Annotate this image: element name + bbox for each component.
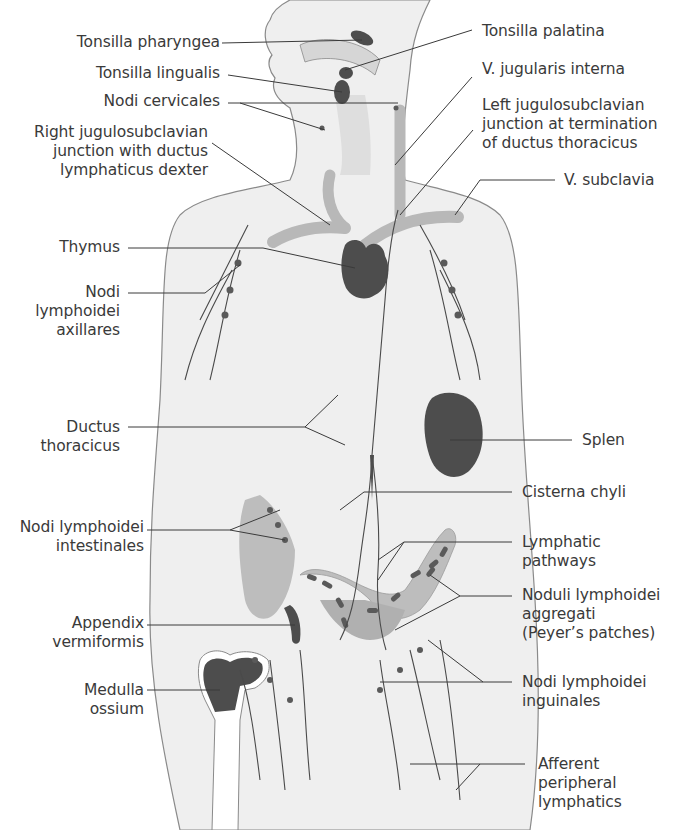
- label-line: lymphaticus dexter: [34, 161, 208, 180]
- label-line: Appendix: [52, 614, 144, 633]
- label-line: junction at termination: [482, 115, 657, 134]
- label-right-jugulosubclavian: Right jugulosubclavian junction with duc…: [34, 123, 208, 180]
- label-line: Afferent: [538, 755, 622, 774]
- label-line: junction with ductus: [34, 142, 208, 161]
- label-line: lymphoidei: [35, 302, 120, 321]
- label-line: of ductus thoracicus: [482, 134, 657, 153]
- label-line: pathways: [522, 552, 601, 571]
- label-line: Nodi lymphoidei: [522, 673, 646, 692]
- label-line: axillares: [35, 321, 120, 340]
- label-line: Right jugulosubclavian: [34, 123, 208, 142]
- label-appendix-vermiformis: Appendix vermiformis: [52, 614, 144, 652]
- label-line: thoracicus: [40, 437, 120, 456]
- label-noduli-aggregati: Noduli lymphoidei aggregati (Peyer’s pat…: [522, 586, 660, 643]
- label-line: Left jugulosubclavian: [482, 96, 657, 115]
- label-line: Lymphatic: [522, 533, 601, 552]
- label-tonsilla-palatina: Tonsilla palatina: [482, 22, 605, 41]
- tonsilla-palatina-shape: [339, 67, 353, 79]
- label-medulla-ossium: Medulla ossium: [84, 681, 144, 719]
- label-ductus-thoracicus: Ductus thoracicus: [40, 418, 120, 456]
- label-line: Thymus: [59, 238, 120, 257]
- lymphatic-system-diagram: Tonsilla pharyngea Tonsilla lingualis No…: [0, 0, 690, 830]
- label-splen: Splen: [582, 431, 625, 450]
- label-line: lymphatics: [538, 793, 622, 812]
- label-line: Tonsilla palatina: [482, 22, 605, 41]
- label-line: inguinales: [522, 692, 646, 711]
- label-line: Tonsilla pharyngea: [77, 33, 220, 52]
- label-left-jugulosubclavian: Left jugulosubclavian junction at termin…: [482, 96, 657, 153]
- label-lymphatic-pathways: Lymphatic pathways: [522, 533, 601, 571]
- label-line: Noduli lymphoidei: [522, 586, 660, 605]
- label-line: aggregati: [522, 605, 660, 624]
- label-line: Tonsilla lingualis: [96, 64, 220, 83]
- label-cisterna-chyli: Cisterna chyli: [522, 483, 626, 502]
- label-line: V. subclavia: [564, 171, 654, 190]
- label-nodi-intestinales: Nodi lymphoidei intestinales: [20, 518, 144, 556]
- thymus-shape: [341, 240, 388, 298]
- label-line: ossium: [84, 700, 144, 719]
- label-tonsilla-lingualis: Tonsilla lingualis: [96, 64, 220, 83]
- label-line: Medulla: [84, 681, 144, 700]
- label-line: peripheral: [538, 774, 622, 793]
- label-tonsilla-pharyngea: Tonsilla pharyngea: [77, 33, 220, 52]
- label-v-jugularis-interna: V. jugularis interna: [482, 60, 625, 79]
- label-line: Nodi cervicales: [104, 92, 221, 111]
- label-nodi-cervicales: Nodi cervicales: [104, 92, 221, 111]
- label-line: intestinales: [20, 537, 144, 556]
- label-nodi-inguinales: Nodi lymphoidei inguinales: [522, 673, 646, 711]
- label-afferent-lymphatics: Afferent peripheral lymphatics: [538, 755, 622, 812]
- label-line: Nodi: [35, 283, 120, 302]
- label-line: vermiformis: [52, 633, 144, 652]
- label-line: Splen: [582, 431, 625, 450]
- label-v-subclavia: V. subclavia: [564, 171, 654, 190]
- label-line: V. jugularis interna: [482, 60, 625, 79]
- label-line: Nodi lymphoidei: [20, 518, 144, 537]
- label-line: (Peyer’s patches): [522, 624, 660, 643]
- label-thymus: Thymus: [59, 238, 120, 257]
- label-line: Ductus: [40, 418, 120, 437]
- label-line: Cisterna chyli: [522, 483, 626, 502]
- label-nodi-axillares: Nodi lymphoidei axillares: [35, 283, 120, 340]
